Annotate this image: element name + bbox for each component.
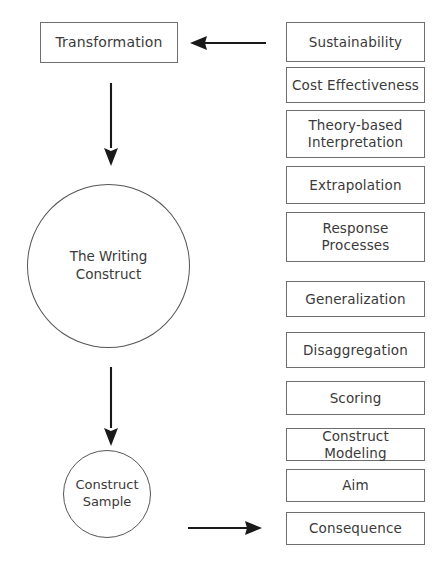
- criteria-box-consequence[interactable]: Consequence: [286, 512, 425, 545]
- construct-sample-label: Construct Sample: [76, 477, 139, 511]
- transformation-label: Transformation: [51, 34, 166, 52]
- writing-construct-label: The Writing Construct: [70, 248, 148, 283]
- writing-construct-node[interactable]: The Writing Construct: [27, 184, 190, 348]
- criteria-label: Construct Modeling: [287, 428, 424, 462]
- criteria-box-theory-based-interpretation[interactable]: Theory-based Interpretation: [286, 110, 425, 158]
- arrow-sustainability-to-transformation: [186, 32, 268, 54]
- diagram-canvas: Transformation The Writing Construct Con…: [0, 0, 447, 565]
- criteria-label: Disaggregation: [299, 342, 412, 359]
- arrow-writing-construct-to-construct-sample: [100, 366, 122, 448]
- criteria-box-extrapolation[interactable]: Extrapolation: [286, 166, 425, 204]
- criteria-label: Cost Effectiveness: [288, 77, 423, 94]
- criteria-label: Response Processes: [318, 220, 394, 254]
- arrow-construct-sample-to-consequence: [186, 517, 266, 539]
- transformation-node[interactable]: Transformation: [40, 22, 178, 63]
- arrow-transformation-to-writing-construct: [100, 82, 122, 168]
- criteria-label: Extrapolation: [305, 177, 405, 194]
- criteria-box-generalization[interactable]: Generalization: [286, 281, 425, 317]
- criteria-label: Sustainability: [305, 34, 407, 51]
- criteria-box-disaggregation[interactable]: Disaggregation: [286, 332, 425, 368]
- criteria-label: Generalization: [301, 291, 409, 308]
- criteria-box-sustainability[interactable]: Sustainability: [286, 22, 425, 62]
- criteria-box-response-processes[interactable]: Response Processes: [286, 212, 425, 262]
- criteria-label: Theory-based Interpretation: [304, 117, 407, 151]
- criteria-box-scoring[interactable]: Scoring: [286, 381, 425, 415]
- construct-sample-node[interactable]: Construct Sample: [63, 450, 151, 538]
- criteria-label: Aim: [338, 477, 373, 494]
- criteria-label: Scoring: [326, 390, 386, 407]
- criteria-box-construct-modeling[interactable]: Construct Modeling: [286, 428, 425, 461]
- criteria-label: Consequence: [305, 520, 406, 537]
- criteria-box-cost-effectiveness[interactable]: Cost Effectiveness: [286, 67, 425, 103]
- criteria-box-aim[interactable]: Aim: [286, 469, 425, 502]
